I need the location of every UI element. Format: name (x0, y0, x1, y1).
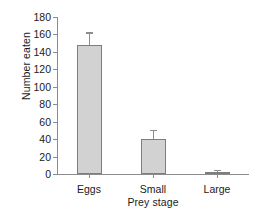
y-axis-tick-mark (53, 17, 57, 18)
x-axis-tick-label: Small (123, 183, 183, 195)
error-bar (217, 171, 218, 172)
y-axis-tick-mark (53, 52, 57, 53)
y-axis-tick-mark (53, 139, 57, 140)
y-axis-title: Number eaten (20, 0, 32, 136)
y-axis-tick-label: 120 (33, 63, 51, 75)
y-axis-tick-label: 140 (33, 46, 51, 58)
x-axis-tick-mark (153, 174, 154, 178)
x-axis-tick-mark (217, 174, 218, 178)
y-axis-tick-mark (53, 104, 57, 105)
bar-group (67, 17, 113, 174)
y-axis-tick-mark (53, 157, 57, 158)
bar-chart-figure: Number eaten 020406080100120140160180 Eg… (0, 0, 260, 216)
y-axis-tick-label: 80 (39, 98, 51, 110)
y-axis-tick-label: 180 (33, 11, 51, 23)
plot-area: 020406080100120140160180 EggsSmallLarge (57, 17, 249, 174)
bar-group (131, 17, 177, 174)
y-axis-line (57, 17, 58, 174)
y-axis-tick-mark (53, 174, 57, 175)
bar (141, 139, 166, 174)
bar (77, 45, 102, 174)
y-axis-tick-label: 100 (33, 81, 51, 93)
x-axis-title: Prey stage (57, 196, 249, 208)
bar-group (195, 17, 241, 174)
x-axis-tick-label: Eggs (59, 183, 119, 195)
y-axis-tick-mark (53, 122, 57, 123)
x-axis-tick-label: Large (187, 183, 247, 195)
y-axis-tick-label: 40 (39, 133, 51, 145)
y-axis-tick-mark (53, 34, 57, 35)
y-axis-tick-mark (53, 87, 57, 88)
error-bar (89, 34, 90, 45)
error-bar-cap (150, 130, 157, 131)
y-axis-tick-label: 20 (39, 151, 51, 163)
error-bar-cap (214, 170, 221, 171)
y-axis-tick-label: 0 (45, 168, 51, 180)
x-axis-tick-mark (89, 174, 90, 178)
error-bar (153, 131, 154, 139)
y-axis-tick-label: 160 (33, 28, 51, 40)
error-bar-cap (86, 32, 93, 33)
y-axis-tick-mark (53, 69, 57, 70)
y-axis-tick-label: 60 (39, 116, 51, 128)
